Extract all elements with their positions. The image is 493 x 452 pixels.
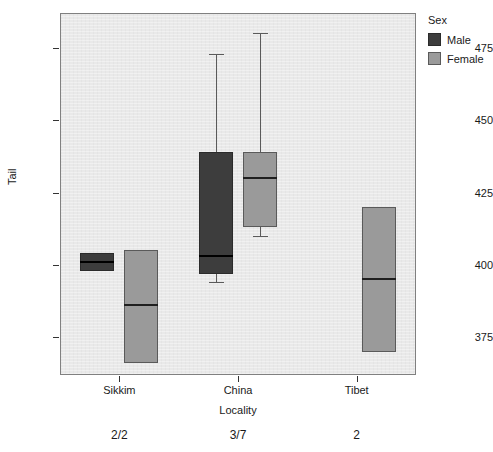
- legend: Sex MaleFemale: [428, 14, 490, 71]
- whisker-cap-lower: [209, 282, 224, 283]
- y-tick-mark: [53, 193, 59, 194]
- sample-size-china: 3/7: [230, 428, 247, 442]
- legend-swatch-male: [428, 33, 441, 46]
- x-tick-mark: [238, 376, 239, 382]
- whisker-cap-upper: [253, 33, 268, 34]
- whisker-lower: [216, 274, 217, 283]
- whisker-lower: [260, 227, 261, 236]
- whisker-cap-upper: [209, 54, 224, 55]
- whisker-upper: [260, 33, 261, 152]
- whisker-cap-lower: [253, 236, 268, 237]
- y-tick-label: 425: [459, 187, 493, 199]
- y-tick-label: 450: [459, 114, 493, 126]
- median-line: [243, 177, 277, 179]
- box-china-female: [243, 152, 277, 227]
- sample-size-tibet: 2: [353, 428, 360, 442]
- y-tick-mark: [53, 265, 59, 266]
- y-tick-label: 400: [459, 259, 493, 271]
- x-tick-label-china: China: [224, 384, 253, 396]
- legend-label-female: Female: [447, 53, 484, 65]
- sample-size-sikkim: 2/2: [111, 428, 128, 442]
- x-tick-label-tibet: Tibet: [345, 384, 369, 396]
- median-line: [80, 261, 114, 263]
- legend-swatch-female: [428, 52, 441, 65]
- x-tick-mark: [357, 376, 358, 382]
- y-tick-mark: [53, 120, 59, 121]
- x-tick-mark: [119, 376, 120, 382]
- legend-items: MaleFemale: [428, 33, 490, 65]
- y-axis-title: Tail: [6, 168, 18, 185]
- boxplot-chart: 375400425450475 Tail SikkimChinaTibet Lo…: [0, 0, 493, 452]
- median-line: [199, 255, 233, 257]
- whisker-upper: [216, 54, 217, 152]
- legend-item-female[interactable]: Female: [428, 52, 490, 65]
- legend-title: Sex: [428, 14, 490, 26]
- median-line: [362, 278, 396, 280]
- y-tick-mark: [53, 48, 59, 49]
- box-sikkim-female: [124, 250, 158, 363]
- median-line: [124, 304, 158, 306]
- x-axis-title: Locality: [219, 404, 256, 416]
- y-tick-label: 375: [459, 331, 493, 343]
- legend-label-male: Male: [447, 34, 471, 46]
- y-tick-mark: [53, 337, 59, 338]
- x-tick-label-sikkim: Sikkim: [103, 384, 135, 396]
- legend-item-male[interactable]: Male: [428, 33, 490, 46]
